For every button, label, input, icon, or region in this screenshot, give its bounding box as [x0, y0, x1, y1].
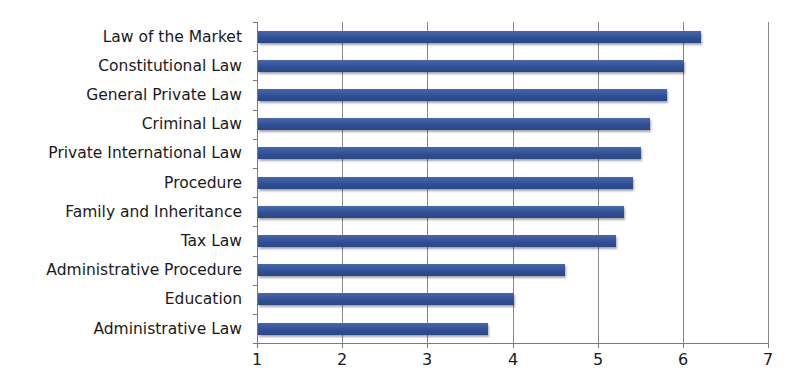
x-tick-label: 7: [753, 350, 783, 369]
x-tick-label: 5: [583, 350, 613, 369]
y-tick-mark: [253, 168, 257, 169]
y-tick-mark: [253, 110, 257, 111]
x-tick-label: 2: [327, 350, 357, 369]
category-label: Family and Inheritance: [65, 203, 242, 221]
category-label: Education: [165, 290, 242, 308]
y-tick-mark: [253, 343, 257, 344]
y-tick-mark: [253, 51, 257, 52]
bar: [258, 235, 616, 247]
category-label: Private International Law: [48, 144, 242, 162]
bar: [258, 31, 701, 43]
bar: [258, 147, 641, 159]
x-tick-label: 1: [242, 350, 272, 369]
bar: [258, 60, 684, 72]
x-tick-mark: [342, 343, 343, 348]
x-tick-label: 6: [668, 350, 698, 369]
x-tick-mark: [598, 343, 599, 348]
category-label: Criminal Law: [142, 115, 242, 133]
y-tick-mark: [253, 226, 257, 227]
y-tick-mark: [253, 80, 257, 81]
y-tick-mark: [253, 314, 257, 315]
y-tick-mark: [253, 285, 257, 286]
category-label: Administrative Law: [93, 320, 242, 338]
x-tick-mark: [513, 343, 514, 348]
x-tick-mark: [683, 343, 684, 348]
bar: [258, 89, 667, 101]
bar: [258, 177, 633, 189]
category-label: Tax Law: [181, 232, 242, 250]
category-label: Law of the Market: [103, 28, 242, 46]
bar: [258, 293, 514, 305]
x-tick-mark: [257, 343, 258, 348]
x-tick-label: 3: [412, 350, 442, 369]
y-tick-mark: [253, 22, 257, 23]
horizontal-bar-chart: Law of the MarketConstitutional LawGener…: [0, 0, 802, 389]
category-label: Administrative Procedure: [46, 261, 242, 279]
y-tick-mark: [253, 256, 257, 257]
bar: [258, 264, 565, 276]
category-label: General Private Law: [86, 86, 242, 104]
y-tick-mark: [253, 139, 257, 140]
gridline: [768, 22, 769, 343]
bar: [258, 206, 624, 218]
x-tick-label: 4: [498, 350, 528, 369]
category-label: Procedure: [164, 174, 242, 192]
x-tick-mark: [427, 343, 428, 348]
bar: [258, 118, 650, 130]
x-tick-mark: [768, 343, 769, 348]
category-label: Constitutional Law: [98, 57, 242, 75]
y-tick-mark: [253, 197, 257, 198]
bar: [258, 323, 488, 335]
